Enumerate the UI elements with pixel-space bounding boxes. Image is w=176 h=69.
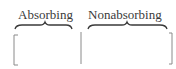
left-bracket-icon bbox=[14, 35, 18, 65]
matrix-partition bbox=[0, 0, 176, 69]
nonabsorbing-brace-icon bbox=[88, 22, 167, 29]
absorbing-brace-icon bbox=[15, 22, 72, 29]
right-bracket-icon bbox=[169, 33, 172, 64]
